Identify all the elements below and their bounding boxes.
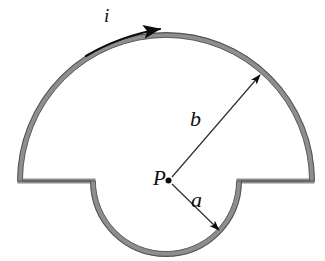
center-point-dot [166,178,172,184]
center-point-label: P [153,168,166,189]
outer-radius-arrow [172,75,260,177]
outer-radius-label: b [190,108,201,130]
figure-canvas [0,0,325,261]
physics-figure: i b a P [0,0,325,261]
wire-path-group [18,33,315,257]
wire-edge-inner-line [22,37,309,251]
wire-body-stroke [20,35,312,254]
wire-edge-outer-line [18,33,315,257]
current-label: i [104,6,109,25]
inner-radius-label: a [191,189,202,211]
